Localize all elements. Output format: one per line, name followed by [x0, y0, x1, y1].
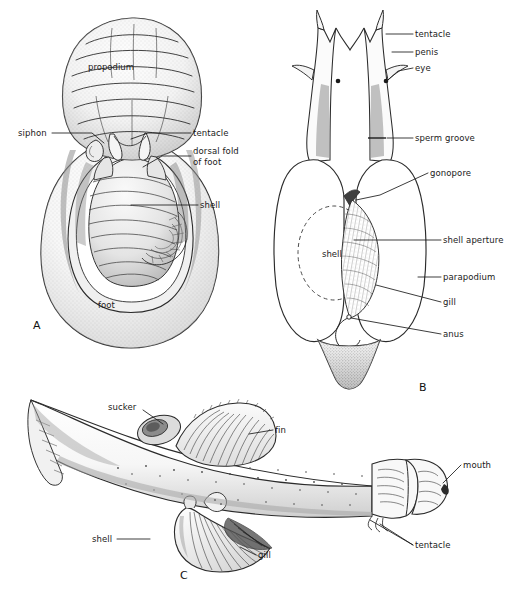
callout-b-penis: penis [415, 47, 438, 58]
callout-c-gill: gill [258, 550, 271, 561]
callout-c-tentacle: tentacle [415, 540, 451, 551]
callout-c-mouth: mouth [463, 460, 491, 471]
panel-c-artwork [28, 399, 461, 572]
figure-plate: propodium foot siphon tentacle dorsal fo… [0, 0, 518, 603]
tentacles-c [368, 516, 388, 532]
callout-a-siphon: siphon [18, 128, 47, 139]
callout-b-anus: anus [443, 329, 464, 340]
penis-left [292, 65, 314, 80]
callout-b-parapodium: parapodium [443, 272, 495, 283]
callout-a-tentacle: tentacle [193, 128, 229, 139]
head-segment-1-c [372, 459, 418, 518]
callout-b-tentacle: tentacle [415, 29, 451, 40]
eye-right [384, 79, 389, 84]
label-a-propodium: propodium [88, 62, 134, 72]
label-b-shell: shell [322, 249, 342, 259]
panel-letter-a: A [33, 319, 41, 332]
callout-b-gonopore: gonopore [430, 168, 471, 179]
penis-right [386, 65, 408, 80]
callout-a-shell: shell [200, 200, 220, 211]
label-a-foot: foot [98, 300, 115, 310]
callout-c-sucker: sucker [108, 402, 136, 413]
tentacle-right [376, 10, 383, 30]
callout-b-gill: gill [443, 297, 456, 308]
figure-artwork [0, 0, 518, 603]
eye-left [336, 79, 341, 84]
callout-b-eye: eye [415, 63, 431, 74]
callout-a-dorsal-fold-of-foot: dorsal fold of foot [193, 146, 239, 167]
panel-letter-c: C [180, 569, 188, 582]
callout-b-sperm-groove: sperm groove [415, 133, 475, 144]
callout-c-shell: shell [92, 534, 112, 545]
fin-c [176, 403, 276, 466]
callout-b-shell-aperture: shell aperture [443, 235, 503, 246]
callout-c-fin: fin [275, 425, 286, 436]
anus-marker [347, 315, 351, 319]
head-notch [336, 28, 364, 50]
tentacle-left [317, 10, 324, 30]
panel-letter-b: B [419, 381, 427, 394]
